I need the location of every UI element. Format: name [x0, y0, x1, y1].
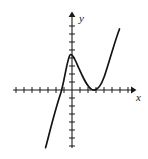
x-axis-label: x — [135, 91, 141, 103]
graph-figure: y x — [0, 0, 148, 159]
cubic-curve — [46, 29, 120, 148]
y-axis-arrow-icon — [69, 12, 76, 18]
coordinate-plane: y x — [0, 0, 148, 159]
y-axis-label: y — [78, 12, 84, 24]
